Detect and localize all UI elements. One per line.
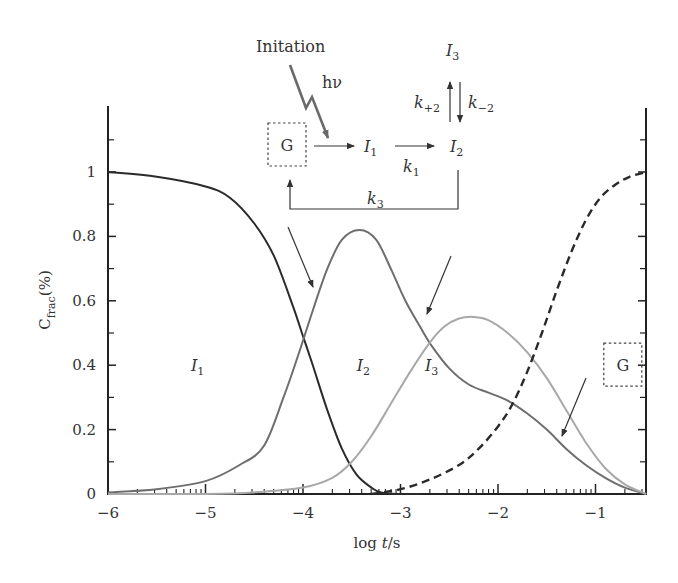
series-line-i3 <box>108 317 646 494</box>
rate-k-plus2-sub: +2 <box>424 102 440 115</box>
curve-label-i3: I3 <box>424 356 438 378</box>
x-tick-label: −1 <box>584 504 606 522</box>
x-axis-title-log: log <box>354 534 382 552</box>
y-axis-title: Cfrac(%) <box>36 270 58 330</box>
y-tick-label: 0 <box>86 485 96 503</box>
pointer-arrow-i2-descent <box>427 256 451 314</box>
curve-label-subscript: 2 <box>363 365 370 378</box>
y-axis-title-sub: frac <box>45 296 58 318</box>
chart: 00.20.40.60.81 −6−5−4−3−2−1 log t/s Cfra… <box>0 0 678 583</box>
species-g: G <box>281 136 294 155</box>
y-axis-title-unit: (%) <box>36 270 54 296</box>
curve-label-i1: I1 <box>190 356 204 378</box>
rate-k-minus2-letter: k <box>468 93 478 112</box>
curve-label-subscript: 1 <box>197 365 204 378</box>
light-label: hν <box>322 73 342 92</box>
species-i1-sub: 1 <box>370 146 377 159</box>
x-tick-label: −6 <box>97 504 119 522</box>
rate-k-plus2-letter: k <box>414 93 424 112</box>
y-tick-label: 0.6 <box>72 292 96 310</box>
species-i1: I1 <box>363 137 377 159</box>
rate-k1-letter: k <box>403 157 413 176</box>
curve-label-i2: I2 <box>356 356 370 378</box>
y-tick-label: 0.4 <box>72 356 96 374</box>
rate-k3-letter: k <box>367 189 377 208</box>
rate-k1-sub: 1 <box>413 166 420 179</box>
rate-k1: k1 <box>403 157 420 179</box>
rate-k-plus2: k+2 <box>414 93 440 115</box>
species-i3-sub: 3 <box>452 50 459 63</box>
curve-label-g: G <box>616 356 629 375</box>
x-tick-label: −2 <box>487 504 509 522</box>
y-tick-label: 1 <box>86 163 96 181</box>
y-tick-label: 0.8 <box>72 227 96 245</box>
species-i3: I3 <box>445 41 459 63</box>
pointer-arrow-i2-tail <box>562 378 586 436</box>
y-tick-label: 0.2 <box>72 421 96 439</box>
y-ticks: 00.20.40.60.81 <box>72 140 646 503</box>
rate-k3: k3 <box>367 189 384 211</box>
species-i2: I2 <box>449 137 463 159</box>
x-tick-label: −3 <box>389 504 411 522</box>
x-axis-title-unit: /s <box>388 534 401 552</box>
y-axis-title-c: C <box>36 318 54 329</box>
curve-label-subscript: 3 <box>431 365 438 378</box>
x-ticks: −6−5−4−3−2−1 <box>97 484 642 522</box>
rate-k3-sub: 3 <box>377 198 384 211</box>
axes <box>107 106 647 494</box>
species-i2-sub: 2 <box>456 146 463 159</box>
pointer-arrow-i2 <box>288 227 313 287</box>
x-axis-title: log t/s <box>354 534 401 552</box>
rate-k-minus2: k−2 <box>468 93 494 115</box>
initiation-label: Initation <box>256 37 325 56</box>
x-tick-label: −5 <box>194 504 216 522</box>
reaction-scheme: Initation hν G I1 k1 I2 I3 k+2 <box>256 37 494 211</box>
series-layer <box>108 172 646 494</box>
rate-k-minus2-sub: −2 <box>478 102 494 115</box>
x-tick-label: −4 <box>292 504 314 522</box>
